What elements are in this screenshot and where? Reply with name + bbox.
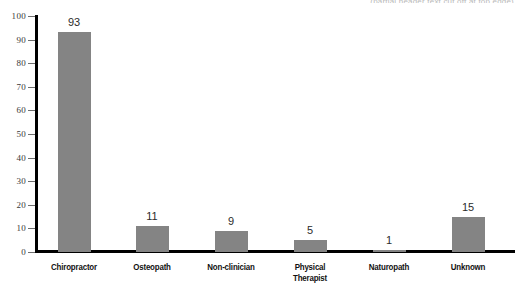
bar-value-label: 11 [122, 210, 182, 222]
y-tick-label: 90 [2, 35, 26, 45]
y-tick-mark [28, 134, 35, 135]
x-axis-line [35, 250, 515, 253]
bar-unknown [452, 217, 485, 252]
y-tick-label: 30 [2, 176, 26, 186]
bar-physical-therapist [294, 240, 327, 252]
plot-area: 0 10 20 30 40 50 60 70 80 90 100 93 11 [0, 0, 522, 295]
bar-value-label: 1 [359, 234, 419, 246]
y-tick-mark [28, 87, 35, 88]
y-tick-mark [28, 110, 35, 111]
y-tick-mark [28, 63, 35, 64]
y-tick-mark [28, 181, 35, 182]
bar-value-label: 15 [438, 201, 498, 213]
bar-value-label: 5 [280, 224, 340, 236]
y-tick-label: 0 [2, 247, 26, 257]
bar-value-label: 9 [201, 215, 261, 227]
y-tick-mark [28, 40, 35, 41]
bar-chiropractor [58, 32, 91, 252]
y-tick-mark [28, 252, 35, 253]
y-axis-line [35, 15, 38, 253]
bar-value-label: 93 [44, 16, 104, 28]
category-label-unknown: Unknown [420, 262, 517, 273]
y-tick-mark [28, 205, 35, 206]
y-tick-label: 60 [2, 105, 26, 115]
y-tick-label: 10 [2, 223, 26, 233]
y-tick-label: 40 [2, 153, 26, 163]
y-tick-label: 50 [2, 129, 26, 139]
y-tick-mark [28, 158, 35, 159]
y-tick-label: 20 [2, 200, 26, 210]
y-tick-mark [28, 228, 35, 229]
bar-naturopath [373, 250, 406, 252]
category-label-line: Therapist [262, 273, 359, 284]
bar-chart: (partial header text cut off at top edge… [0, 0, 522, 295]
bar-osteopath [136, 226, 169, 252]
bar-non-clinician [215, 231, 248, 252]
y-tick-label: 70 [2, 82, 26, 92]
category-label-line: Unknown [420, 262, 517, 273]
y-tick-label: 80 [2, 58, 26, 68]
y-tick-label: 100 [2, 11, 26, 21]
y-tick-mark [28, 16, 35, 17]
